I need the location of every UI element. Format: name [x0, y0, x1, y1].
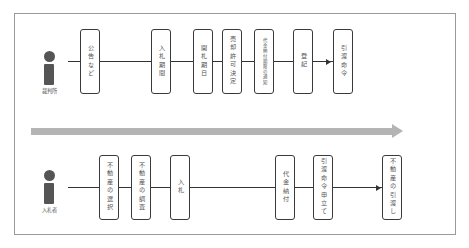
step-label: 不動産の調査 — [138, 162, 144, 212]
timeline-arrowhead-icon — [392, 124, 403, 138]
step-label: 入札期間 — [158, 45, 164, 79]
step-label: 不動産の引渡し — [389, 158, 395, 217]
court-step-bid-opening-date: 開札期日 — [193, 29, 213, 94]
bidder-step-property-handover: 不動産の引渡し — [382, 155, 402, 220]
step-label: 代金納付期限の通知 — [262, 38, 266, 85]
step-label: 入札 — [177, 179, 183, 196]
person-head-icon — [44, 170, 55, 181]
bidder-actor-label: 入札者 — [34, 206, 64, 213]
bidder-lane-arrowhead-icon — [376, 185, 381, 191]
bidder-step-bidding: 入札 — [170, 155, 190, 220]
court-step-public-notice: 公告など — [80, 29, 100, 94]
bidder-step-property-investigation: 不動産の調査 — [131, 155, 151, 220]
timeline-arrow — [31, 124, 403, 139]
step-label: 売却許可決定 — [229, 36, 235, 86]
step-label: 代金納付 — [282, 171, 288, 205]
bidder-step-property-selection: 不動産の選択 — [99, 155, 119, 220]
step-label: 不動産の選択 — [106, 162, 112, 212]
court-actor-label: 裁判所 — [34, 87, 64, 94]
court-lane-arrowhead-icon — [326, 59, 331, 65]
timeline-arrow-shaft — [31, 128, 393, 135]
court-step-registration: 登記 — [293, 29, 313, 94]
step-label: 引渡命令 — [340, 45, 346, 79]
step-label: 引渡命令申立て — [320, 158, 326, 217]
person-body-icon — [44, 64, 54, 85]
step-label: 開札期日 — [200, 45, 206, 79]
person-head-icon — [44, 51, 55, 62]
court-step-sale-permission: 売却許可決定 — [222, 29, 242, 94]
court-step-payment-deadline-notice: 代金納付期限の通知 — [254, 29, 274, 94]
court-step-bidding-period: 入札期間 — [151, 29, 171, 94]
court-step-delivery-order: 引渡命令 — [333, 29, 353, 94]
step-label: 公告など — [87, 45, 93, 79]
step-label: 登記 — [300, 53, 306, 70]
bidder-step-delivery-order-petition: 引渡命令申立て — [313, 155, 333, 220]
person-body-icon — [44, 183, 54, 204]
bidder-step-payment: 代金納付 — [275, 155, 295, 220]
